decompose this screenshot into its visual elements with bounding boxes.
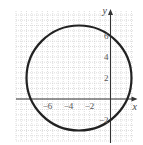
circle-chart: −6−4−2 642−2 x y: [0, 0, 143, 145]
y-axis-arrow: [108, 9, 113, 15]
x-axis-label: x: [132, 101, 138, 112]
x-tick-label: −4: [64, 101, 74, 111]
y-tick-label: −2: [99, 115, 109, 125]
y-tick-label: 4: [104, 52, 109, 62]
y-tick-label: 2: [104, 73, 109, 83]
x-tick-label: −2: [85, 101, 95, 111]
y-axis-label: y: [102, 5, 108, 16]
x-tick-labels: −6−4−2: [43, 101, 95, 111]
y-tick-label: 6: [104, 31, 109, 41]
x-tick-label: −6: [43, 101, 53, 111]
grid: [16, 11, 134, 141]
